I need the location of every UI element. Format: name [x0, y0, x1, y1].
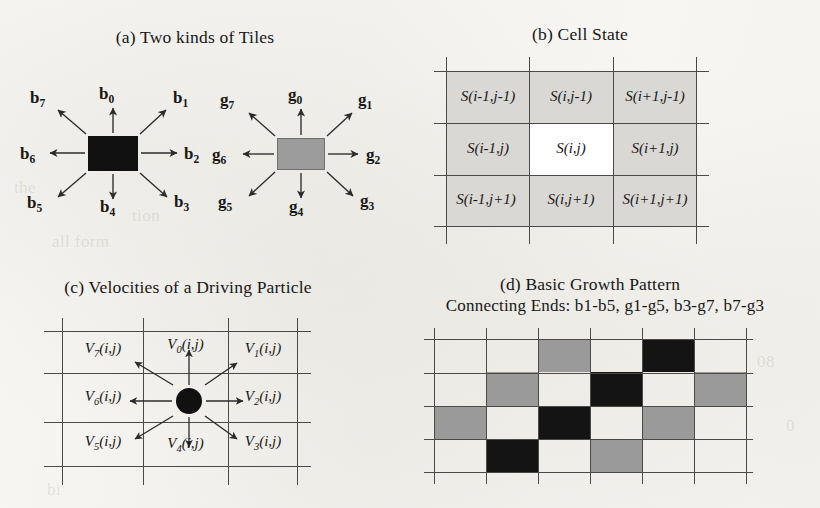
cell-label: S(i,j+1) — [529, 191, 613, 208]
growth-cell-black — [590, 372, 642, 405]
growth-cell-black — [538, 406, 590, 439]
label-g3: g3 — [360, 191, 374, 212]
panel-d-subtitle: Connecting Ends: b1-b5, g1-g5, b3-g7, b7… — [390, 296, 820, 316]
cell-label: S(i,j-1) — [529, 88, 613, 105]
label-g2: g2 — [366, 145, 380, 166]
cell-label: S(i+1,j-1) — [612, 88, 698, 105]
cell-label-v5: V5(i,j) — [62, 433, 144, 452]
cell-label: S(i,j) — [529, 140, 613, 157]
growth-cell-black — [486, 439, 538, 472]
growth-cell-gray — [434, 406, 486, 439]
cell-label-v0: V0(i,j) — [143, 336, 228, 355]
cell-label: S(i-1,j+1) — [444, 191, 528, 208]
cell-label: S(i+1,j) — [612, 140, 698, 157]
growth-cell-gray — [642, 406, 694, 439]
cell-label-v1: V1(i,j) — [228, 340, 298, 359]
cell-label: S(i-1,j-1) — [446, 88, 530, 105]
cell-label: S(i+1,j+1) — [611, 191, 699, 208]
growth-cell-gray — [538, 339, 590, 372]
growth-cell-gray — [486, 372, 538, 405]
cell-label-v3: V3(i,j) — [228, 433, 298, 452]
cell-label-v2: V2(i,j) — [228, 388, 298, 407]
panel-c-arrows — [0, 0, 360, 508]
label-g1: g1 — [358, 90, 372, 111]
cell-label-v7: V7(i,j) — [62, 340, 144, 359]
cell-label: S(i-1,j) — [446, 140, 530, 157]
ghost-text: 0 — [786, 416, 795, 436]
ghost-text: 08 — [757, 352, 775, 372]
cell-label-v6: V6(i,j) — [62, 388, 144, 407]
panel-b-title: (b) Cell State — [430, 24, 730, 45]
growth-cell-gray — [590, 439, 642, 472]
growth-cell-gray — [694, 372, 746, 405]
cell-label-v4: V4(i,j) — [143, 435, 228, 454]
growth-cell-black — [642, 339, 694, 372]
panel-d-title: (d) Basic Growth Pattern — [440, 274, 740, 295]
